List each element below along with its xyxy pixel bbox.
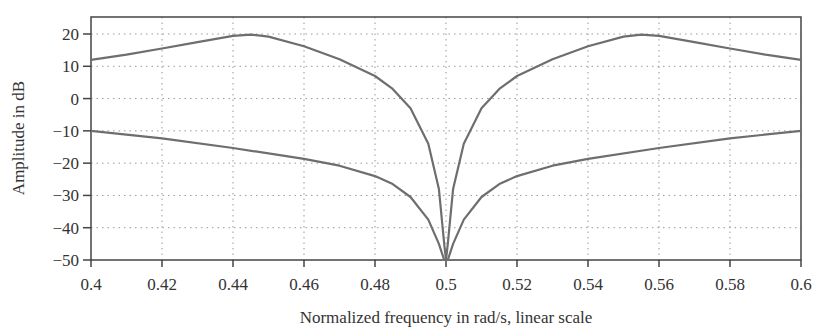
x-axis-label: Normalized frequency in rad/s, linear sc… bbox=[300, 308, 593, 327]
x-tick-label: 0.6 bbox=[790, 275, 811, 294]
x-tick-label: 0.46 bbox=[289, 275, 319, 294]
y-tick-label: 0 bbox=[71, 90, 80, 109]
x-tick-labels: 0.40.420.440.460.480.50.520.540.560.580.… bbox=[80, 275, 811, 294]
y-tick-label: −50 bbox=[52, 251, 79, 270]
x-tick-label: 0.56 bbox=[644, 275, 674, 294]
y-tick-labels: 20100−10−20−30−40−50 bbox=[52, 25, 79, 270]
grid-lines bbox=[91, 17, 801, 260]
x-tick-label: 0.58 bbox=[715, 275, 745, 294]
y-tick-label: −40 bbox=[52, 219, 79, 238]
y-tick-label: −10 bbox=[52, 122, 79, 141]
x-tick-label: 0.42 bbox=[147, 275, 177, 294]
x-tick-label: 0.48 bbox=[360, 275, 390, 294]
y-axis-label: Amplitude in dB bbox=[9, 81, 28, 195]
y-tick-label: 10 bbox=[62, 57, 79, 76]
x-tick-label: 0.4 bbox=[80, 275, 102, 294]
amplitude-chart: 0.40.420.440.460.480.50.520.540.560.580.… bbox=[0, 0, 817, 333]
y-tick-label: 20 bbox=[62, 25, 79, 44]
y-tick-label: −20 bbox=[52, 154, 79, 173]
y-tick-label: −30 bbox=[52, 186, 79, 205]
x-tick-label: 0.52 bbox=[502, 275, 532, 294]
x-tick-label: 0.5 bbox=[435, 275, 456, 294]
x-tick-label: 0.44 bbox=[218, 275, 248, 294]
x-tick-label: 0.54 bbox=[573, 275, 603, 294]
